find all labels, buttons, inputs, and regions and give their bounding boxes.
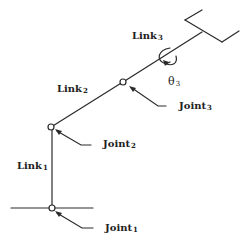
joint3-leader <box>132 88 166 106</box>
joint3-circle <box>120 79 126 85</box>
link3-label: Link3 <box>132 31 163 41</box>
joint1-circle <box>49 205 55 211</box>
joint1-label: Joint1 <box>105 223 138 233</box>
diagram-drawing <box>0 0 251 247</box>
joint3-label: Joint3 <box>179 101 212 111</box>
joint2-circle <box>48 124 54 130</box>
joint3-arrowhead <box>129 86 136 92</box>
theta3-label: θ3 <box>168 76 180 88</box>
joint2-leader <box>57 131 91 145</box>
joint2-label: Joint2 <box>103 139 136 149</box>
joint1-arrowhead <box>55 211 62 217</box>
link1-label: Link1 <box>17 161 48 171</box>
joint1-leader <box>57 213 93 228</box>
robot-arm-diagram: Link3 Link2 Link1 θ3 Joint3 Joint2 Joint… <box>0 0 251 247</box>
link2-label: Link2 <box>57 84 88 94</box>
joint2-arrowhead <box>55 129 62 135</box>
